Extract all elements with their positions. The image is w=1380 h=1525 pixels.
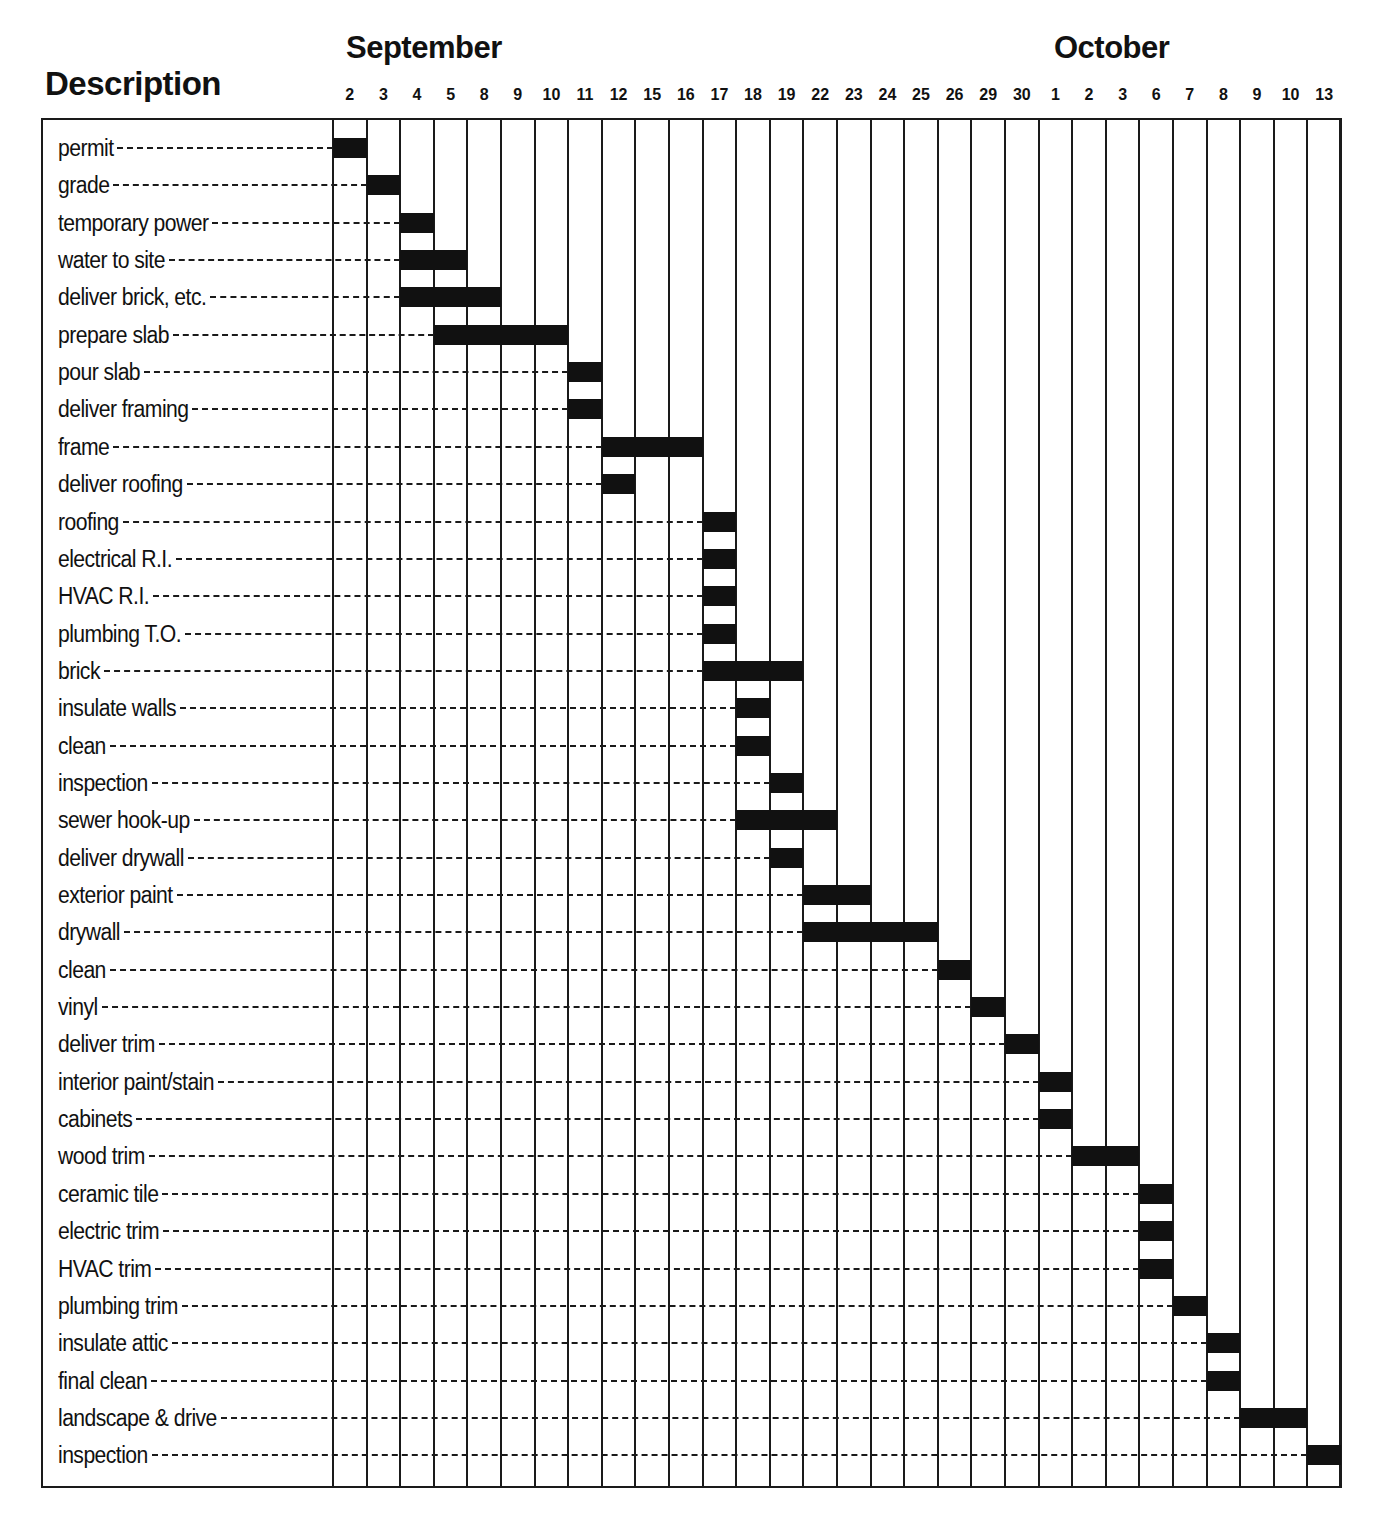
leader-line xyxy=(182,1305,1173,1307)
task-row: deliver brick, etc. xyxy=(58,279,1338,316)
task-bar xyxy=(333,138,367,158)
leader-line xyxy=(192,408,568,410)
task-bar xyxy=(803,885,870,905)
task-bar xyxy=(803,922,937,942)
task-row: electric trim xyxy=(58,1213,1338,1250)
leader-line xyxy=(117,147,333,149)
task-row: temporary power xyxy=(58,205,1338,242)
date-label: 15 xyxy=(635,86,669,104)
task-label: final clean xyxy=(58,1366,147,1396)
leader-line xyxy=(176,558,703,560)
leader-line xyxy=(173,334,434,336)
task-row: deliver roofing xyxy=(58,466,1338,503)
leader-line xyxy=(177,894,804,896)
date-label: 30 xyxy=(1005,86,1039,104)
leader-line xyxy=(104,670,703,672)
leader-line xyxy=(159,1043,1005,1045)
task-bar xyxy=(1005,1034,1039,1054)
task-label: insulate attic xyxy=(58,1328,168,1358)
task-row: water to site xyxy=(58,242,1338,279)
leader-line xyxy=(110,969,938,971)
date-label: 2 xyxy=(1072,86,1106,104)
task-row: clean xyxy=(58,952,1338,989)
leader-line xyxy=(155,1268,1139,1270)
task-label: frame xyxy=(58,432,109,462)
task-bar xyxy=(568,399,602,419)
task-row: brick xyxy=(58,653,1338,690)
leader-line xyxy=(188,857,770,859)
leader-line xyxy=(163,1230,1139,1232)
task-label: deliver roofing xyxy=(58,469,183,499)
task-row: cabinets xyxy=(58,1101,1338,1138)
task-row: deliver trim xyxy=(58,1026,1338,1063)
task-label: plumbing trim xyxy=(58,1291,178,1321)
date-label: 3 xyxy=(367,86,401,104)
leader-line xyxy=(152,1454,1308,1456)
task-bar xyxy=(1139,1259,1173,1279)
leader-line xyxy=(169,259,400,261)
task-label: temporary power xyxy=(58,208,208,238)
task-row: roofing xyxy=(58,504,1338,541)
task-bar xyxy=(1173,1296,1207,1316)
task-row: clean xyxy=(58,728,1338,765)
task-label: inspection xyxy=(58,1440,148,1470)
leader-line xyxy=(151,1380,1206,1382)
task-row: insulate walls xyxy=(58,690,1338,727)
leader-line xyxy=(153,595,703,597)
task-row: prepare slab xyxy=(58,317,1338,354)
task-row: plumbing T.O. xyxy=(58,616,1338,653)
leader-line xyxy=(152,782,770,784)
task-bar xyxy=(1139,1184,1173,1204)
task-label: pour slab xyxy=(58,357,140,387)
date-label: 2 xyxy=(333,86,367,104)
task-bar xyxy=(434,325,568,345)
leader-line xyxy=(210,296,400,298)
date-label: 26 xyxy=(938,86,972,104)
task-bar xyxy=(1139,1221,1173,1241)
task-row: electrical R.I. xyxy=(58,541,1338,578)
task-bar xyxy=(1240,1408,1307,1428)
date-label: 24 xyxy=(871,86,905,104)
date-label: 23 xyxy=(837,86,871,104)
task-bar xyxy=(400,287,501,307)
task-label: exterior paint xyxy=(58,880,173,910)
task-bar xyxy=(703,586,737,606)
leader-line xyxy=(149,1155,1072,1157)
date-label: 12 xyxy=(602,86,636,104)
task-label: insulate walls xyxy=(58,693,176,723)
task-bar xyxy=(602,474,636,494)
date-label: 3 xyxy=(1106,86,1140,104)
task-label: prepare slab xyxy=(58,320,169,350)
task-row: grade xyxy=(58,167,1338,204)
task-label: clean xyxy=(58,955,106,985)
task-label: deliver brick, etc. xyxy=(58,282,206,312)
leader-line xyxy=(187,483,602,485)
leader-line xyxy=(194,819,737,821)
task-bar xyxy=(1072,1146,1139,1166)
task-row: exterior paint xyxy=(58,877,1338,914)
leader-line xyxy=(124,931,803,933)
date-label: 9 xyxy=(1240,86,1274,104)
task-bar xyxy=(568,362,602,382)
task-label: vinyl xyxy=(58,992,98,1022)
task-row: sewer hook-up xyxy=(58,802,1338,839)
task-row: landscape & drive xyxy=(58,1400,1338,1437)
date-label: 5 xyxy=(434,86,468,104)
task-label: electrical R.I. xyxy=(58,544,172,574)
leader-line xyxy=(113,184,366,186)
leader-line xyxy=(218,1081,1039,1083)
leader-line xyxy=(180,707,736,709)
month-label-september: September xyxy=(346,30,502,66)
task-row: final clean xyxy=(58,1363,1338,1400)
date-label: 8 xyxy=(467,86,501,104)
date-label: 19 xyxy=(770,86,804,104)
task-row: inspection xyxy=(58,765,1338,802)
task-row: plumbing trim xyxy=(58,1288,1338,1325)
task-bar xyxy=(1039,1072,1073,1092)
leader-line xyxy=(221,1417,1240,1419)
task-label: sewer hook-up xyxy=(58,805,190,835)
task-label: permit xyxy=(58,133,113,163)
task-label: plumbing T.O. xyxy=(58,619,181,649)
task-label: brick xyxy=(58,656,100,686)
task-label: grade xyxy=(58,170,109,200)
